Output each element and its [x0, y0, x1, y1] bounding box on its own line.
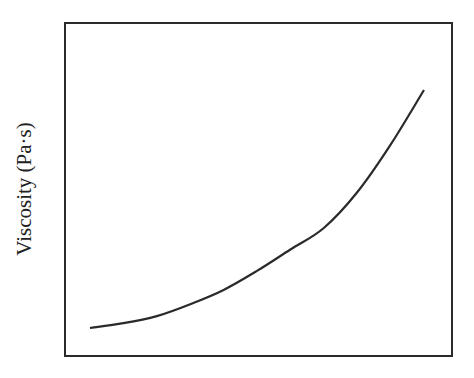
viscosity-chart	[0, 0, 474, 378]
viscosity-curve	[90, 90, 424, 328]
plot-frame	[65, 23, 452, 356]
y-axis-label: Viscosity (Pa·s)	[12, 122, 37, 255]
